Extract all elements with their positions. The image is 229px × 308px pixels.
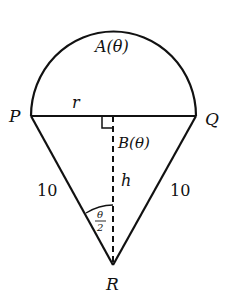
label-radius: r [72, 93, 81, 112]
diagram-canvas: A(θ) r P Q B(θ) h 10 10 θ 2 R [0, 0, 229, 308]
label-point-r: R [105, 274, 119, 294]
label-height: h [121, 171, 131, 190]
label-area-a: A(θ) [93, 37, 129, 56]
label-area-b: B(θ) [117, 134, 150, 152]
label-side-right: 10 [170, 181, 190, 200]
right-angle-marker [102, 116, 113, 128]
label-point-q: Q [205, 109, 219, 129]
label-angle-denominator: 2 [96, 222, 103, 233]
label-side-left: 10 [37, 181, 57, 200]
label-point-p: P [8, 106, 21, 126]
label-angle-numerator: θ [97, 209, 103, 220]
